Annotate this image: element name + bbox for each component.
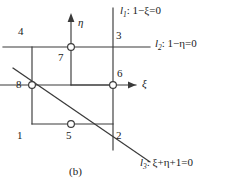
- node-label-5: 5: [66, 130, 72, 141]
- eta-axis-label: η: [78, 17, 83, 28]
- node-label-3: 3: [116, 30, 122, 41]
- line-l2-label: l2: 1−η=0: [155, 38, 197, 52]
- node-marker-5: [68, 121, 75, 128]
- node-marker-6: [110, 82, 117, 89]
- node-label-2: 2: [116, 130, 122, 141]
- node-marker-8: [29, 82, 36, 89]
- xi-axis-label: ξ: [142, 78, 147, 89]
- line-l3-equation: : ξ+η+1=0: [147, 156, 193, 168]
- node-label-1: 1: [17, 130, 23, 141]
- element-diagram-figure: 4 7 3 8 6 1 5 2 η ξ l1: 1−ξ=0 l2: 1−η=0 …: [0, 0, 226, 183]
- node-marker-7: [68, 44, 75, 51]
- line-l1-label: l1: 1−ξ=0: [120, 5, 161, 19]
- line-l2-equation: : 1−η=0: [162, 37, 197, 49]
- node-label-4: 4: [18, 26, 24, 37]
- line-l3-label: l3: ξ+η+1=0: [140, 157, 193, 171]
- line-l1-equation: : 1−ξ=0: [127, 4, 161, 16]
- node-label-8: 8: [16, 79, 22, 90]
- eta-axis-arrowhead: [68, 13, 75, 22]
- xi-axis-arrowhead: [128, 82, 136, 89]
- node-label-6: 6: [117, 68, 123, 79]
- figure-caption: (b): [69, 166, 82, 177]
- node-label-7: 7: [58, 52, 64, 63]
